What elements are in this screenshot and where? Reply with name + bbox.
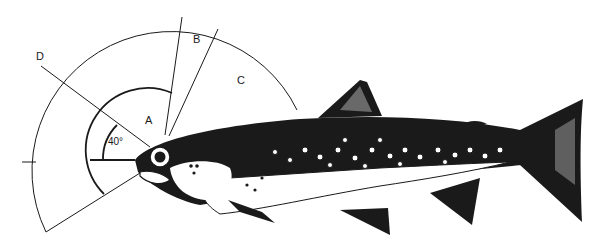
label-angle-40: 40° [108, 136, 123, 147]
pelvic-fin [340, 208, 390, 235]
label-b: B [193, 33, 200, 45]
anal-fin [430, 178, 480, 225]
lower-field-boundary [46, 168, 148, 232]
line-b-c-boundary [169, 29, 218, 136]
label-a: A [145, 114, 153, 126]
trout-visual-field-diagram: D B C A 40° [0, 0, 605, 248]
line-d [41, 66, 150, 147]
trout-illustration [135, 80, 583, 235]
label-d: D [36, 50, 44, 62]
label-c: C [237, 74, 245, 86]
line-a-b-boundary [165, 17, 182, 135]
